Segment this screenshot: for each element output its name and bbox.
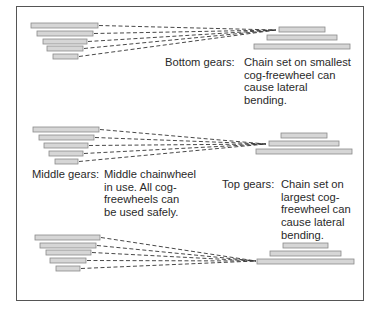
chainwheel-bar <box>47 46 83 51</box>
gear-panel-bottom <box>31 23 350 59</box>
cog-freewheel-bar <box>270 251 341 256</box>
caption-line: cause lateral <box>281 216 351 229</box>
caption-label: Bottom gears: <box>165 56 235 69</box>
chainwheel-bar <box>49 151 83 156</box>
chain-line <box>84 30 276 49</box>
chainwheel-bar <box>50 258 86 263</box>
chainwheel-bar <box>37 31 93 36</box>
chain-line <box>89 144 266 146</box>
chainwheel-bar <box>44 143 88 148</box>
chainwheel-bar <box>33 127 99 132</box>
caption-label: Top gears: <box>222 178 274 191</box>
gear-panel-middle <box>33 127 352 164</box>
cog-freewheel-bar <box>283 243 328 248</box>
cog-freewheel-bar <box>254 44 350 49</box>
chain-line <box>100 130 266 145</box>
caption-description: Middle chainwheel in use. All cog- freew… <box>104 168 196 219</box>
chain-line <box>92 253 256 262</box>
caption-line: bending. <box>281 229 351 242</box>
chainwheel-bar <box>46 250 91 255</box>
chain-line <box>99 26 276 31</box>
caption-line: Middle chainwheel <box>104 168 196 181</box>
caption-description: Chain set on largest cog- freewheel can … <box>281 178 351 242</box>
chain-line <box>101 238 256 262</box>
caption-line: cause lateral <box>244 81 351 94</box>
caption-line: Chain set on smallest <box>244 56 351 69</box>
gear-diagram <box>0 0 377 312</box>
caption-line: freewheels can <box>104 193 196 206</box>
caption-line: Chain set on <box>281 178 351 191</box>
cog-freewheel-bar <box>257 259 354 264</box>
chain-line <box>95 138 266 145</box>
caption-line: in use. All cog- <box>104 181 196 194</box>
cog-freewheel-bar <box>281 133 327 138</box>
caption-line: freewheel can <box>281 203 351 216</box>
chainwheel-bar <box>53 54 78 59</box>
chainwheel-bar <box>35 235 100 240</box>
cog-freewheel-bar <box>269 141 339 146</box>
chain-line <box>81 261 256 269</box>
caption-description: Chain set on smallest cog-freewheel can … <box>244 56 351 107</box>
cog-freewheel-bar <box>267 35 337 40</box>
cog-freewheel-bar <box>256 149 352 154</box>
chain-line <box>79 144 266 162</box>
chainwheel-bar <box>56 266 80 271</box>
chainwheel-bar <box>39 135 94 140</box>
chain-line <box>79 30 276 57</box>
caption-line: largest cog- <box>281 191 351 204</box>
caption-line: be used safely. <box>104 206 196 219</box>
chain-line <box>87 261 256 262</box>
chainwheel-bar <box>31 23 98 28</box>
cog-freewheel-bar <box>279 27 325 32</box>
caption-line: cog-freewheel can <box>244 69 351 82</box>
chainwheel-bar <box>40 243 96 248</box>
chainwheel-bar <box>43 39 87 44</box>
chainwheel-bar <box>55 159 78 164</box>
caption-line: bending. <box>244 94 351 107</box>
caption-label: Middle gears: <box>32 168 99 181</box>
chain-line <box>97 246 256 262</box>
